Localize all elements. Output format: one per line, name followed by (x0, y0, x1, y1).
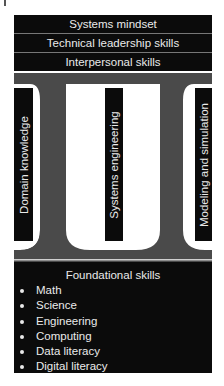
list-item: Digital literacy (20, 359, 212, 374)
column-systems-engineering: Systems engineering (105, 88, 123, 241)
bullet-icon (20, 335, 24, 339)
list-item-label: Engineering (36, 315, 97, 327)
list-item: Math (20, 283, 212, 298)
list-item-label: Data literacy (36, 345, 100, 357)
column-systems-engineering-label: Systems engineering (108, 111, 120, 218)
foundation-list: Math Science Engineering Computing Data … (14, 283, 212, 375)
bullet-icon (20, 304, 24, 308)
list-item: Data literacy (20, 344, 212, 359)
list-item-label: Science (36, 299, 77, 311)
column-modeling-simulation-label: Modeling and simulation (198, 102, 210, 226)
list-item: Computing (20, 329, 212, 344)
column-modeling-simulation: Modeling and simulation (195, 88, 212, 241)
bullet-icon (20, 289, 24, 293)
column-domain-knowledge: Domain knowledge (14, 88, 33, 241)
bullet-icon (20, 365, 24, 369)
column-domain-knowledge-label: Domain knowledge (18, 116, 30, 214)
list-item: Engineering (20, 314, 212, 329)
foundation-title: Foundational skills (14, 267, 212, 283)
foundation-block: Foundational skills Math Science Enginee… (14, 262, 212, 373)
bullet-icon (20, 350, 24, 354)
list-item-label: Math (36, 284, 62, 296)
list-item: Science (20, 298, 212, 313)
list-item-label: Computing (36, 330, 92, 342)
bullet-icon (20, 320, 24, 324)
list-item-label: Digital literacy (36, 360, 108, 372)
